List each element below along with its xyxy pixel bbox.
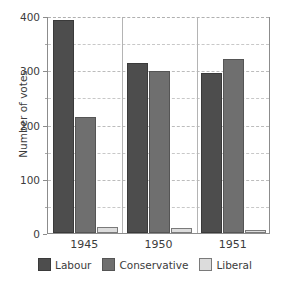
legend-swatch-labour [38, 258, 51, 271]
bar-liberal-1950 [171, 228, 192, 233]
y-axis-minor-tick [45, 153, 47, 154]
y-axis-tick-label: 400 [0, 11, 40, 23]
y-axis-tick [43, 234, 47, 235]
y-axis-minor-tick [45, 207, 47, 208]
x-axis-tick-label-1951: 1951 [219, 238, 247, 251]
plot-area [47, 17, 270, 234]
bar-conservative-1945 [75, 117, 96, 233]
y-axis-tick-label: 0 [0, 228, 40, 240]
legend-item-conservative[interactable]: Conservative [102, 258, 188, 271]
bar-liberal-1951 [245, 230, 266, 233]
chart-legend: LabourConservativeLiberal [0, 258, 290, 271]
gridline [48, 44, 269, 45]
y-axis-tick-label: 200 [0, 120, 40, 132]
legend-swatch-conservative [102, 258, 115, 271]
legend-label: Liberal [216, 259, 252, 271]
legend-item-labour[interactable]: Labour [38, 258, 91, 271]
bar-conservative-1951 [223, 59, 244, 233]
gridline [48, 17, 269, 18]
bar-chart: Number of votes 0100200300400 1945195019… [0, 0, 290, 286]
legend-item-liberal[interactable]: Liberal [199, 258, 252, 271]
legend-label: Conservative [119, 259, 188, 271]
y-axis-tick [43, 71, 47, 72]
y-axis-tick-label: 100 [0, 174, 40, 186]
y-axis-tick-label: 300 [0, 65, 40, 77]
y-axis-minor-tick [45, 98, 47, 99]
bar-labour-1945 [53, 20, 74, 233]
group-separator [122, 17, 123, 233]
legend-swatch-liberal [199, 258, 212, 271]
y-axis-tick [43, 126, 47, 127]
y-axis-title: Number of votes [17, 39, 29, 189]
y-axis-minor-tick [45, 44, 47, 45]
bar-labour-1950 [127, 63, 148, 233]
bar-labour-1951 [201, 73, 222, 233]
y-axis-tick [43, 17, 47, 18]
y-axis-tick [43, 180, 47, 181]
x-axis-tick-label-1945: 1945 [70, 238, 98, 251]
legend-label: Labour [55, 259, 91, 271]
x-axis-tick-label-1950: 1950 [145, 238, 173, 251]
bar-conservative-1950 [149, 71, 170, 233]
group-separator [197, 17, 198, 233]
plot-inner [48, 17, 269, 233]
bar-liberal-1945 [97, 227, 118, 234]
